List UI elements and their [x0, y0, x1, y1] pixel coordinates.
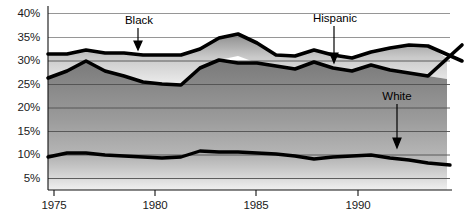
- y-axis-label-40: 40%: [0, 7, 40, 19]
- y-axis-label-30: 30%: [0, 54, 40, 66]
- band-hispanic-white: [48, 60, 447, 165]
- x-axis-label-1980: 1980: [133, 199, 177, 211]
- x-axis-label-1990: 1990: [336, 199, 380, 211]
- y-axis-label-35: 35%: [0, 31, 40, 43]
- chart-plot-area: [0, 0, 468, 224]
- series-label-black: Black: [108, 14, 170, 26]
- series-label-white: White: [366, 90, 428, 102]
- poverty-rate-line-chart: 40% 35% 30% 25% 20% 15% 10% 5% 1975 1980…: [0, 0, 468, 224]
- y-axis-label-20: 20%: [0, 101, 40, 113]
- y-axis-label-15: 15%: [0, 125, 40, 137]
- y-axis-label-10: 10%: [0, 148, 40, 160]
- series-label-hispanic: Hispanic: [300, 12, 370, 24]
- y-axis-label-25: 25%: [0, 78, 40, 90]
- arrow-hispanic-icon: [330, 26, 338, 63]
- y-axis-label-5: 5%: [0, 172, 40, 184]
- chart-background-bands: [48, 34, 447, 190]
- x-axis-label-1975: 1975: [32, 199, 76, 211]
- x-axis-label-1985: 1985: [234, 199, 278, 211]
- arrow-black-icon: [134, 28, 142, 50]
